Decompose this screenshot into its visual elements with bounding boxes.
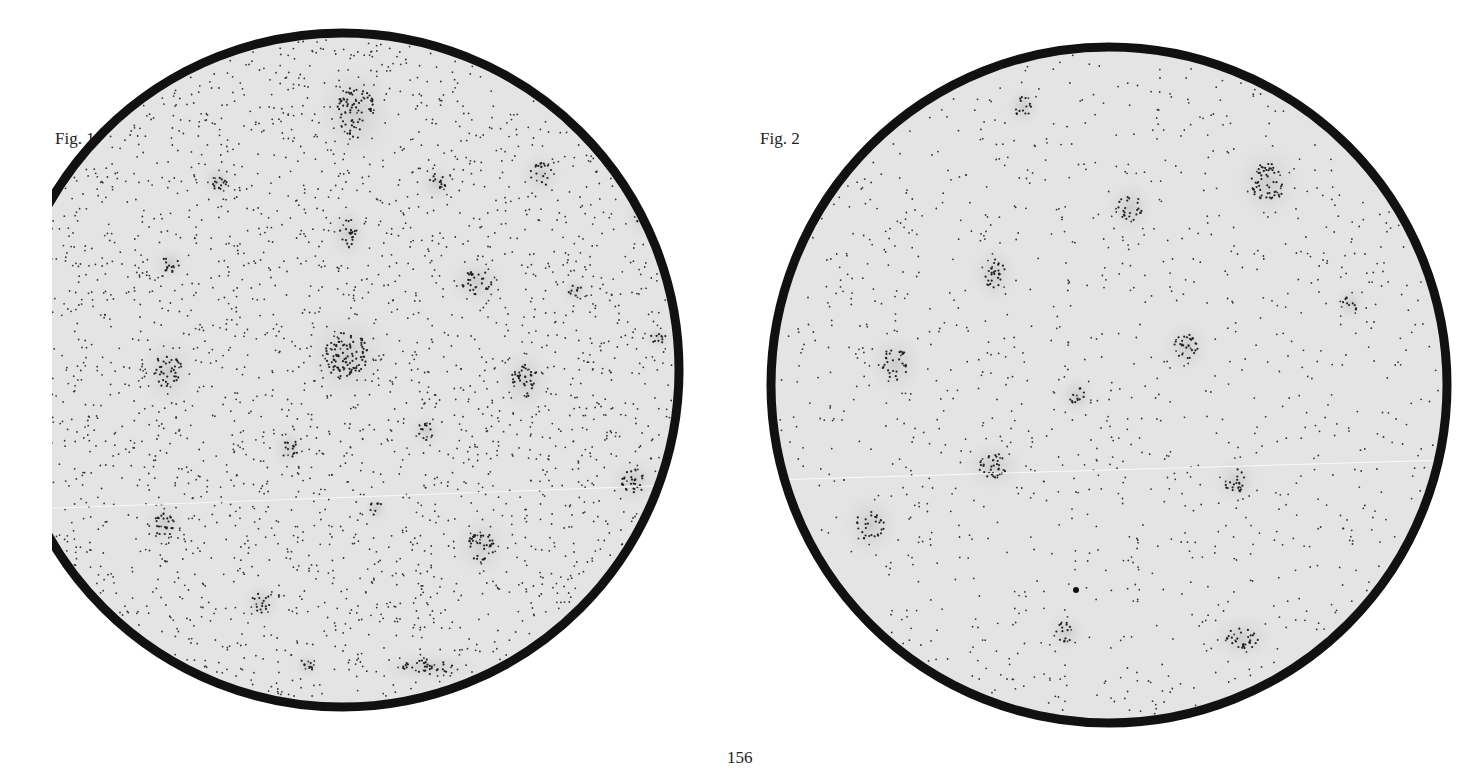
- page-number: 156: [727, 748, 753, 768]
- figure-2-dot-field: [765, 28, 1455, 728]
- figure-1-dot-field: [52, 26, 734, 726]
